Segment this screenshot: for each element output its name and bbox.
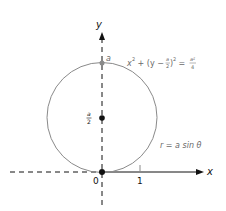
y-axis-arrow-icon [99,32,105,40]
center-label-denominator: 2 [87,118,91,125]
polar-circle-diagram: y x 0 1 a a 2 x 2 + (y − a 2 ) 2 = a² 4 … [0,0,226,211]
origin-label: 0 [93,176,99,186]
svg-text:+ (y −: + (y − [135,59,166,68]
svg-text:a: a [166,56,169,62]
polar-equation: r = a sin θ [160,141,202,150]
origin-point [99,169,105,175]
top-point-label: a [106,54,111,63]
y-axis-label: y [95,19,103,30]
x-axis-label: x [206,166,213,177]
tick-1-label: 1 [137,176,143,186]
svg-text:=: = [176,59,188,68]
x-axis-arrow-icon [196,169,204,175]
svg-text:2: 2 [166,63,169,69]
cartesian-equation: x 2 + (y − a 2 ) 2 = a² 4 [126,56,196,70]
center-label-numerator: a [87,110,91,117]
svg-text:a²: a² [190,56,195,62]
svg-text:4: 4 [191,64,194,70]
top-point [100,61,105,66]
center-point [99,115,105,121]
